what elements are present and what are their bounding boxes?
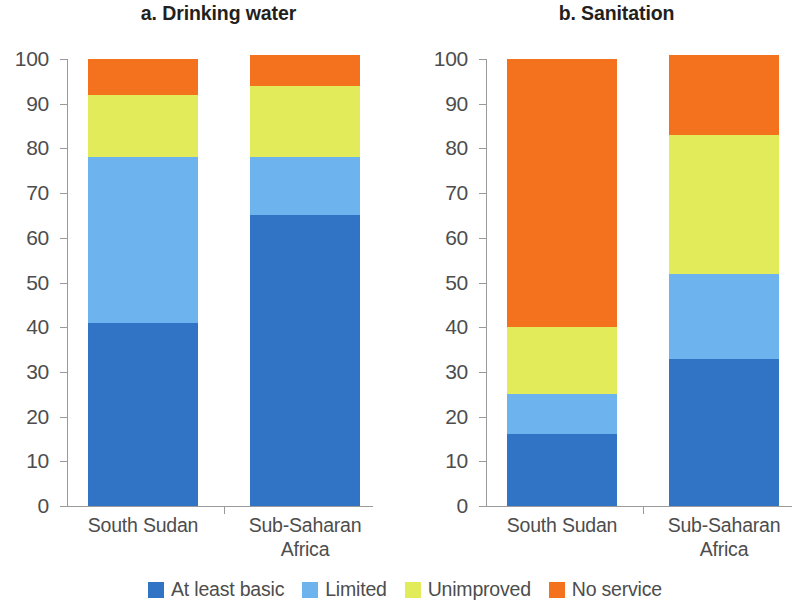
bar-segment[interactable] — [250, 157, 360, 215]
y-axis-tick: 0 — [479, 506, 486, 507]
y-axis-tick: 50 — [60, 283, 67, 284]
y-axis-tick: 50 — [479, 283, 486, 284]
y-axis-tick-label: 70 — [445, 181, 468, 205]
legend-item[interactable]: No service — [549, 578, 662, 601]
legend-item[interactable]: At least basic — [148, 578, 284, 601]
y-axis-tick: 80 — [60, 148, 67, 149]
y-axis-tick-label: 40 — [445, 315, 468, 339]
y-axis-tick: 30 — [60, 372, 67, 373]
legend-label: Unimproved — [428, 578, 531, 601]
bar-segment[interactable] — [507, 394, 617, 434]
y-axis-tick: 10 — [479, 461, 486, 462]
panel-sanitation: b. Sanitation 0102030405060708090100Sout… — [405, 0, 810, 575]
legend-label: No service — [572, 578, 662, 601]
y-axis-tick: 20 — [60, 417, 67, 418]
y-axis-tick: 60 — [479, 238, 486, 239]
y-axis-tick: 100 — [60, 59, 67, 60]
y-axis-tick-label: 50 — [26, 271, 49, 295]
stacked-bar[interactable] — [88, 59, 198, 506]
y-axis-tick: 10 — [60, 461, 67, 462]
y-axis-tick: 60 — [60, 238, 67, 239]
y-axis-tick-label: 70 — [26, 181, 49, 205]
y-axis-tick-label: 40 — [26, 315, 49, 339]
y-axis-tick-label: 90 — [26, 92, 49, 116]
panel-a-plot-area: 0102030405060708090100South SudanSub-Sah… — [68, 59, 373, 506]
legend-swatch-icon — [148, 582, 164, 598]
panel-a-title: a. Drinking water — [0, 2, 405, 25]
stacked-bar[interactable] — [250, 55, 360, 506]
y-axis-tick-label: 90 — [445, 92, 468, 116]
chart-legend: At least basicLimitedUnimprovedNo servic… — [0, 578, 810, 601]
bar-segment[interactable] — [250, 55, 360, 86]
bar-segment[interactable] — [669, 135, 779, 274]
panel-b-plot-area: 0102030405060708090100South SudanSub-Sah… — [487, 59, 792, 506]
y-axis-tick: 70 — [60, 193, 67, 194]
bar-segment[interactable] — [669, 55, 779, 135]
x-axis-category-label: Sub-Saharan Africa — [649, 514, 799, 562]
bar-segment[interactable] — [507, 59, 617, 327]
y-axis-tick-label: 10 — [445, 449, 468, 473]
bar-segment[interactable] — [250, 215, 360, 506]
y-axis-tick-label: 60 — [26, 226, 49, 250]
y-axis-tick-label: 80 — [26, 136, 49, 160]
y-axis-tick: 90 — [60, 104, 67, 105]
stacked-bar-figure: a. Drinking water 0102030405060708090100… — [0, 0, 810, 610]
legend-item[interactable]: Unimproved — [405, 578, 531, 601]
x-axis-tick — [643, 506, 644, 514]
x-axis-category-label: South Sudan — [487, 514, 637, 538]
y-axis-tick: 80 — [479, 148, 486, 149]
bar-segment[interactable] — [88, 323, 198, 506]
panel-drinking-water: a. Drinking water 0102030405060708090100… — [0, 0, 405, 575]
y-axis-tick: 40 — [479, 327, 486, 328]
y-axis-tick-label: 100 — [434, 47, 468, 71]
y-axis-tick: 90 — [479, 104, 486, 105]
y-axis-tick-label: 30 — [26, 360, 49, 384]
legend-item[interactable]: Limited — [302, 578, 386, 601]
y-axis-line — [486, 59, 487, 506]
legend-swatch-icon — [302, 582, 318, 598]
y-axis-tick-label: 80 — [445, 136, 468, 160]
y-axis-line — [67, 59, 68, 506]
bar-segment[interactable] — [88, 157, 198, 322]
x-axis-category-label: South Sudan — [68, 514, 218, 538]
y-axis-tick: 70 — [479, 193, 486, 194]
panel-b-title: b. Sanitation — [405, 2, 810, 25]
legend-swatch-icon — [405, 582, 421, 598]
y-axis-tick: 40 — [60, 327, 67, 328]
x-axis-tick — [224, 506, 225, 514]
legend-swatch-icon — [549, 582, 565, 598]
legend-label: Limited — [325, 578, 386, 601]
y-axis-tick: 0 — [60, 506, 67, 507]
y-axis-tick-label: 0 — [38, 494, 49, 518]
y-axis-tick-label: 30 — [445, 360, 468, 384]
y-axis-tick: 30 — [479, 372, 486, 373]
x-axis-line — [486, 506, 792, 507]
y-axis-tick-label: 20 — [26, 405, 49, 429]
x-axis-category-label: Sub-Saharan Africa — [230, 514, 380, 562]
legend-label: At least basic — [171, 578, 284, 601]
y-axis-tick-label: 100 — [15, 47, 49, 71]
bar-segment[interactable] — [669, 274, 779, 359]
x-axis-line — [67, 506, 373, 507]
y-axis-tick: 100 — [479, 59, 486, 60]
stacked-bar[interactable] — [669, 55, 779, 506]
y-axis-tick-label: 0 — [457, 494, 468, 518]
y-axis-tick-label: 50 — [445, 271, 468, 295]
bar-segment[interactable] — [507, 327, 617, 394]
y-axis-tick-label: 20 — [445, 405, 468, 429]
bar-segment[interactable] — [88, 95, 198, 158]
bar-segment[interactable] — [507, 434, 617, 506]
y-axis-tick-label: 10 — [26, 449, 49, 473]
bar-segment[interactable] — [88, 59, 198, 95]
bar-segment[interactable] — [669, 359, 779, 507]
y-axis-tick: 20 — [479, 417, 486, 418]
stacked-bar[interactable] — [507, 59, 617, 506]
y-axis-tick-label: 60 — [445, 226, 468, 250]
bar-segment[interactable] — [250, 86, 360, 158]
